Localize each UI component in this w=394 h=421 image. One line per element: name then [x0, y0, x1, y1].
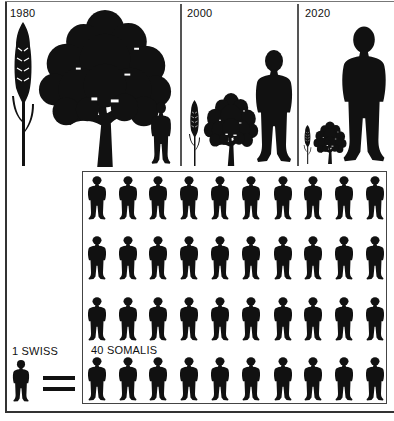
somali-person-icon	[179, 296, 199, 342]
somali-person-icon	[210, 175, 230, 221]
frame-bottom-border	[5, 411, 394, 413]
somali-person-icon	[118, 235, 138, 281]
somali-person-icon	[118, 175, 138, 221]
person-icon-1980	[150, 100, 172, 166]
equals-sign-top-bar	[43, 376, 75, 380]
somali-person-icon	[210, 235, 230, 281]
somali-person-icon	[365, 235, 385, 281]
wheat-icon-2000	[188, 100, 201, 166]
somali-person-icon	[334, 235, 354, 281]
equals-sign-bottom-bar	[43, 387, 75, 391]
somali-person-icon	[87, 356, 107, 402]
swiss-label: 1 SWISS	[12, 345, 58, 357]
somali-person-icon	[210, 356, 230, 402]
somali-person-icon	[148, 175, 168, 221]
year-label-2000: 2000	[187, 7, 212, 19]
somali-person-icon	[273, 296, 293, 342]
somali-person-icon	[87, 235, 107, 281]
wheat-icon-1980	[10, 22, 36, 166]
somali-person-icon	[334, 356, 354, 402]
frame-top-border	[5, 1, 394, 2]
somali-person-icon	[241, 356, 261, 402]
somali-person-icon	[179, 356, 199, 402]
person-icon-2020	[340, 23, 388, 166]
somali-person-icon	[334, 296, 354, 342]
somali-person-icon	[179, 175, 199, 221]
somali-person-icon	[365, 175, 385, 221]
somali-person-icon	[118, 356, 138, 402]
somali-person-icon	[303, 175, 323, 221]
somali-person-icon	[365, 296, 385, 342]
somali-person-icon	[210, 296, 230, 342]
swiss-person-icon	[12, 359, 30, 403]
somali-person-icon	[273, 175, 293, 221]
somalis-label: 40 SOMALIS	[91, 344, 157, 356]
somali-person-icon	[303, 296, 323, 342]
somali-person-icon	[148, 235, 168, 281]
year-label-2020: 2020	[305, 7, 330, 19]
tree-icon-2000	[203, 92, 259, 166]
somali-person-icon	[273, 356, 293, 402]
somali-person-icon	[303, 235, 323, 281]
somali-person-icon	[303, 356, 323, 402]
somali-person-icon	[87, 296, 107, 342]
somali-person-icon	[179, 235, 199, 281]
frame-left-border	[5, 2, 7, 413]
somali-person-icon	[365, 356, 385, 402]
somali-person-icon	[241, 296, 261, 342]
somali-person-icon	[273, 235, 293, 281]
somali-person-icon	[148, 296, 168, 342]
panel-divider-1980-2000	[180, 4, 182, 166]
somali-person-icon	[87, 175, 107, 221]
somali-person-icon	[148, 356, 168, 402]
somali-person-icon	[241, 175, 261, 221]
wheat-icon-2020	[303, 125, 312, 164]
person-icon-2000	[254, 47, 294, 166]
somali-person-icon	[118, 296, 138, 342]
year-label-1980: 1980	[10, 7, 35, 19]
somali-person-icon	[241, 235, 261, 281]
somali-person-icon	[334, 175, 354, 221]
panel-divider-2000-2020	[297, 4, 299, 166]
